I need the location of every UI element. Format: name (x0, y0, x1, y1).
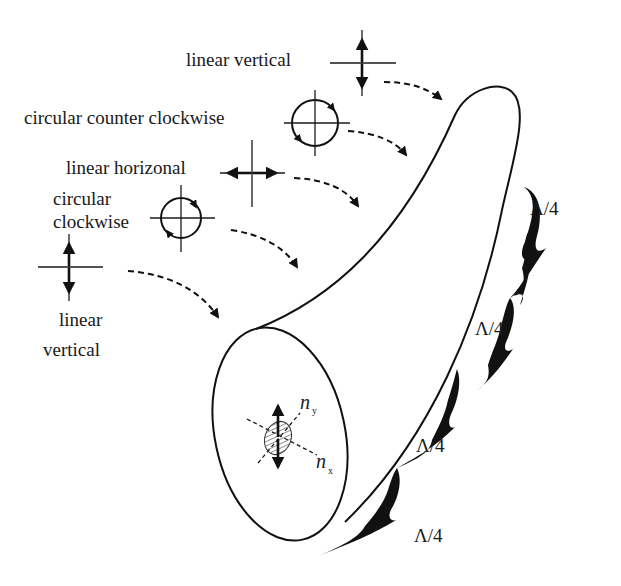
label-circular-clockwise-2: clockwise (53, 211, 129, 232)
axis-nx-label: n (316, 450, 326, 472)
label-linear-horizontal: linear horizonal (66, 157, 186, 178)
segment-label-3: Λ/4 (416, 435, 445, 456)
label-circular-clockwise-1: circular (53, 188, 112, 209)
axis-ny-label: n (300, 391, 310, 413)
label-circular-counter-clockwise: circular counter clockwise (24, 107, 224, 128)
dashed-arrow-3 (294, 178, 358, 206)
dashed-arrow-2 (348, 131, 406, 155)
linear-horizontal-polarization-icon (220, 140, 285, 207)
label-linear-vertical-top: linear vertical (186, 49, 291, 70)
linear-vertical-polarization-icon (330, 30, 396, 96)
dashed-arrow-4 (231, 230, 297, 267)
circular-counter-clockwise-polarization-icon (284, 90, 350, 156)
axis-ny-subscript: y (312, 405, 317, 416)
axis-nx-subscript: x (328, 465, 333, 476)
label-linear-vertical-bottom-1: linear (59, 309, 103, 330)
segment-label-2: Λ/4 (475, 318, 504, 339)
circular-clockwise-polarization-icon (150, 185, 215, 252)
dashed-arrow-1 (384, 82, 441, 99)
dashed-arrow-5 (128, 271, 218, 317)
segment-label-1: Λ/4 (530, 198, 559, 219)
fiber-core (247, 406, 317, 467)
linear-vertical-polarization-icon-bottom (38, 234, 103, 301)
segment-label-4: Λ/4 (414, 525, 443, 546)
label-linear-vertical-bottom-2: vertical (43, 339, 100, 360)
fiber-tube (194, 87, 520, 554)
segment-braces (318, 187, 546, 556)
fiber-polarization-diagram: linear vertical circular counter clockwi… (0, 0, 621, 586)
